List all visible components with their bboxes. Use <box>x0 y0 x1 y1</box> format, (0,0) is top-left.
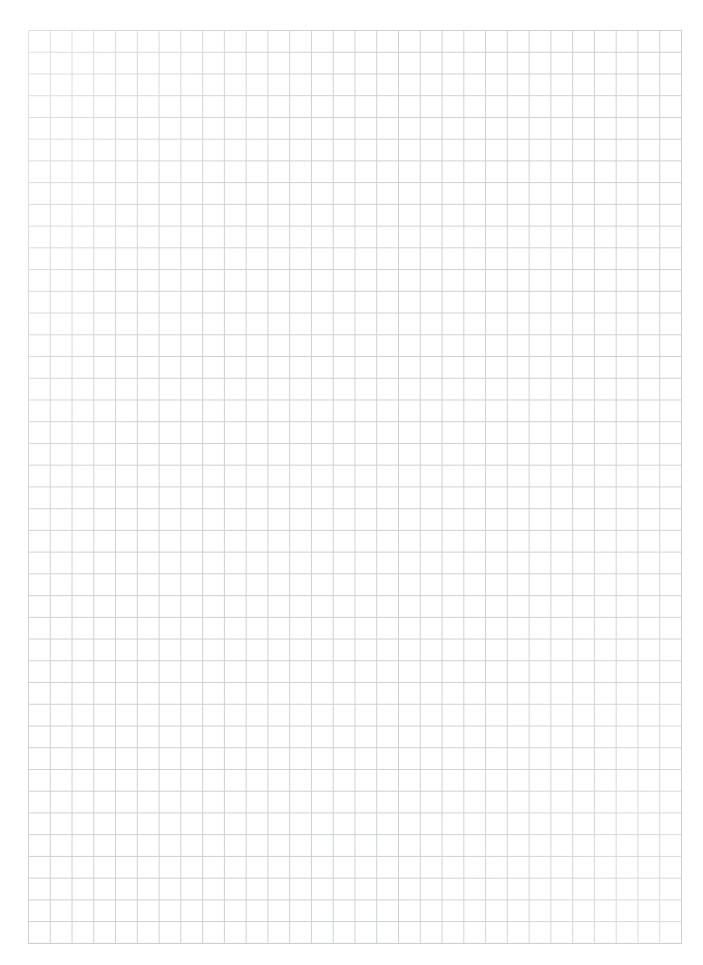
graph-paper-grid <box>28 30 682 944</box>
scanned-page <box>0 0 703 965</box>
